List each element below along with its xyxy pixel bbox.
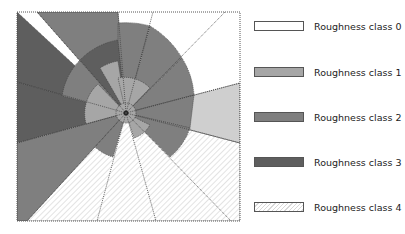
legend-label: Roughness class 3 bbox=[314, 157, 402, 168]
legend-item-class4: Roughness class 4 bbox=[254, 200, 402, 214]
legend-label: Roughness class 2 bbox=[314, 112, 402, 123]
legend-swatch-class2 bbox=[254, 112, 304, 122]
legend-label: Roughness class 4 bbox=[314, 202, 402, 213]
legend: Roughness class 0 Roughness class 1 Roug… bbox=[252, 0, 405, 234]
legend-item-class2: Roughness class 2 bbox=[254, 110, 402, 124]
legend-swatch-class3 bbox=[254, 157, 304, 167]
legend-label: Roughness class 0 bbox=[314, 21, 402, 32]
legend-item-class0: Roughness class 0 bbox=[254, 19, 402, 33]
legend-label: Roughness class 1 bbox=[314, 67, 402, 78]
roughness-sector-diagram bbox=[0, 0, 250, 234]
legend-swatch-class0 bbox=[254, 21, 304, 31]
legend-item-class3: Roughness class 3 bbox=[254, 155, 402, 169]
roughness-rose-map bbox=[0, 0, 250, 234]
legend-swatch-class1 bbox=[254, 67, 304, 77]
legend-swatch-class4 bbox=[254, 202, 304, 212]
legend-item-class1: Roughness class 1 bbox=[254, 65, 402, 79]
